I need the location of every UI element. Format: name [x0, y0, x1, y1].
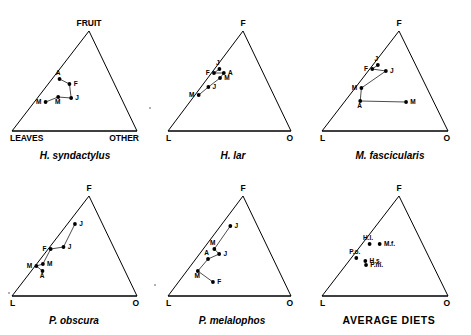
data-point — [384, 69, 388, 73]
data-point — [197, 93, 201, 97]
data-point — [206, 257, 210, 261]
data-point-label: F — [43, 245, 47, 252]
data-point-label: M — [352, 84, 357, 91]
data-point — [404, 100, 408, 104]
ternary-triangle-outline — [168, 31, 291, 131]
data-point — [363, 259, 367, 263]
data-point-label: J — [216, 59, 220, 66]
data-point-label: A — [357, 102, 362, 109]
vertex-label-right: O — [286, 298, 293, 308]
data-point-label: F — [217, 278, 221, 285]
vertex-label-right: O — [286, 133, 293, 143]
vertex-label-left: L — [10, 298, 15, 308]
data-point-label: F — [74, 80, 78, 87]
data-point-label: F — [364, 65, 368, 72]
ternary-panel-average-diets: FLOH.l.M.f.P.o.H.s.P.m.AVERAGE DIETS — [320, 183, 450, 326]
panel-caption-p-obscura: P. obscura — [49, 315, 99, 326]
vertex-label-right: O — [443, 133, 450, 143]
data-point — [228, 224, 232, 228]
vertex-label-right: O — [132, 298, 139, 308]
scan-artifact-speck — [149, 107, 151, 109]
data-point — [34, 264, 38, 268]
data-point-label: J — [235, 222, 239, 229]
vertex-label-top: F — [240, 183, 245, 193]
vertex-label-left: L — [320, 133, 325, 143]
data-point-label: A — [40, 272, 45, 279]
data-point — [206, 85, 210, 89]
data-point — [217, 252, 221, 256]
data-point-label: M — [189, 91, 194, 98]
data-point — [73, 222, 77, 226]
data-point-label: M — [27, 262, 32, 269]
scan-artifact-speck — [154, 284, 156, 286]
data-point-label: M — [210, 239, 215, 246]
data-point-label: J — [79, 220, 83, 227]
vertex-label-left: L — [320, 298, 325, 308]
data-point-label: A — [56, 69, 61, 76]
data-point-label: M — [55, 98, 60, 105]
data-point-label: P.o. — [349, 248, 360, 255]
scan-artifact-speck — [8, 292, 10, 294]
data-point — [41, 262, 45, 266]
panel-caption-h-syndactylus: H. syndactylus — [40, 150, 111, 161]
data-point-label: J — [375, 55, 379, 62]
data-point — [218, 76, 222, 80]
data-point-label: H.l. — [363, 234, 373, 241]
panel-caption-h-lar: H. lar — [220, 150, 246, 161]
data-point-label: M — [410, 98, 415, 105]
panel-caption-p-melalophos: P. melalophos — [199, 315, 266, 326]
data-point-label: P.m. — [370, 261, 383, 268]
data-point-label: J — [75, 94, 79, 101]
data-point-label: M — [195, 272, 200, 279]
vertex-label-left: L — [166, 298, 171, 308]
data-point — [368, 242, 372, 246]
data-point — [49, 247, 53, 251]
ternary-triangle-outline — [322, 31, 448, 131]
vertex-label-left: LEAVES — [10, 133, 44, 143]
vertex-label-top: FRUIT — [76, 18, 102, 28]
vertex-label-top: F — [396, 18, 401, 28]
data-point — [218, 67, 222, 71]
data-point-label: M — [36, 98, 41, 105]
data-point — [68, 82, 72, 86]
data-point-label: J — [223, 250, 227, 257]
data-point-label: F — [206, 69, 210, 76]
data-point — [354, 256, 358, 260]
ternary-panel-m-fascicularis: FLOJFJMAMM. fascicularis — [320, 18, 450, 161]
data-point-label: J — [68, 243, 72, 250]
panel-caption-average-diets: AVERAGE DIETS — [343, 314, 436, 326]
data-point — [44, 100, 48, 104]
data-point — [364, 263, 368, 267]
vertex-label-right: O — [443, 298, 450, 308]
data-point-label: M — [224, 74, 229, 81]
ternary-triangle-outline — [12, 196, 137, 296]
ternary-panel-h-syndactylus: FRUITLEAVESOTHERAFJMMH. syndactylus — [10, 18, 139, 161]
data-point-label: M — [47, 260, 52, 267]
data-point — [370, 67, 374, 71]
ternary-panel-p-obscura: FLOJJFMMAP. obscura — [10, 183, 139, 326]
ternary-diagram-figure: FRUITLEAVESOTHERAFJMMH. syndactylusFLOJF… — [0, 0, 471, 335]
data-point — [378, 242, 382, 246]
data-point — [376, 63, 380, 67]
data-point — [212, 71, 216, 75]
vertex-label-right: OTHER — [109, 133, 139, 143]
vertex-label-top: F — [240, 18, 245, 28]
vertex-label-top: F — [86, 183, 91, 193]
ternary-triangle-outline — [168, 196, 291, 296]
data-point-label: J — [390, 67, 394, 74]
data-point — [360, 86, 364, 90]
data-point — [69, 96, 73, 100]
ternary-panel-h-lar: FLOJFAMJMH. lar — [166, 18, 293, 161]
data-point — [58, 77, 62, 81]
data-point-label: M.f. — [384, 240, 395, 247]
data-point-label: A — [204, 249, 209, 256]
data-point — [211, 280, 215, 284]
data-point — [212, 247, 216, 251]
vertex-label-left: L — [166, 133, 171, 143]
vertex-label-top: F — [396, 183, 401, 193]
ternary-panel-p-melalophos: FLOJMJAMFP. melalophos — [166, 183, 293, 326]
panel-caption-m-fascicularis: M. fascicularis — [356, 150, 425, 161]
data-point — [62, 245, 66, 249]
data-point-label: J — [213, 83, 217, 90]
